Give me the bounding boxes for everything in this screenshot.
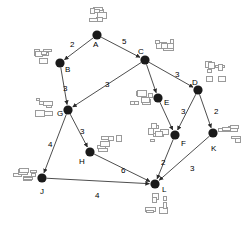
redaction-rect <box>148 128 154 135</box>
edge-weight-h-l: 6 <box>121 167 125 175</box>
mark-near-a <box>86 6 108 26</box>
edge-weight-a-b: 2 <box>70 41 74 49</box>
redaction-rect <box>35 110 45 117</box>
mark-near-k <box>218 124 244 145</box>
node-l[interactable] <box>150 179 159 188</box>
node-c[interactable] <box>140 55 149 64</box>
node-label-e: E <box>164 99 169 107</box>
redaction-rect <box>218 64 223 71</box>
mark-near-j <box>12 163 38 183</box>
redaction-rect <box>151 123 157 129</box>
redaction-rect <box>137 90 147 97</box>
node-label-f: F <box>181 140 186 148</box>
redaction-rect <box>163 196 167 201</box>
redaction-rect <box>41 51 47 55</box>
redaction-rect <box>155 40 160 44</box>
redaction-rect <box>150 139 155 142</box>
redaction-rect <box>161 43 168 49</box>
redaction-rect <box>152 197 157 203</box>
node-a[interactable] <box>92 30 101 39</box>
edge-weight-c-d: 3 <box>175 71 179 79</box>
node-k[interactable] <box>208 128 217 137</box>
redaction-rect <box>208 62 215 69</box>
redaction-rect <box>116 135 122 142</box>
redaction-rect <box>101 136 109 140</box>
redaction-rect <box>206 76 213 82</box>
graph-diagram: ABCDEFGHJKL 2533332234364 <box>0 0 250 233</box>
redaction-rect <box>23 177 33 180</box>
mark-near-g <box>33 98 55 118</box>
redaction-rect <box>155 131 163 137</box>
node-label-k: K <box>211 145 216 153</box>
edge-weight-g-h: 3 <box>80 128 84 136</box>
redaction-rect <box>130 101 135 105</box>
edge-weight-a-c: 5 <box>122 38 126 46</box>
edge-d-k <box>200 94 212 127</box>
edge-weight-d-k: 2 <box>214 108 218 116</box>
redaction-rect <box>230 125 239 129</box>
redaction-rect <box>89 18 98 22</box>
node-label-g: G <box>57 110 63 118</box>
node-b[interactable] <box>55 58 64 67</box>
node-label-j: J <box>40 188 44 196</box>
edge-a-b <box>64 38 93 60</box>
mark-near-h <box>95 133 124 153</box>
node-g[interactable] <box>63 105 72 114</box>
node-label-b: B <box>65 66 70 74</box>
edge-j-l <box>47 178 150 183</box>
redaction-rect <box>167 43 174 49</box>
redaction-rect <box>231 136 241 139</box>
redaction-rect <box>218 76 226 82</box>
node-label-a: A <box>93 41 98 49</box>
redaction-rect <box>100 141 110 147</box>
mark-near-b <box>33 48 55 66</box>
node-e[interactable] <box>153 93 162 102</box>
node-h[interactable] <box>85 147 94 156</box>
node-label-d: D <box>192 79 198 87</box>
edge-weight-g-j: 4 <box>48 141 52 149</box>
edge-c-d <box>149 62 193 87</box>
edge-weight-j-l: 4 <box>95 192 99 200</box>
edge-weight-k-l: 3 <box>190 165 194 173</box>
mark-near-c <box>152 36 178 53</box>
redaction-rect <box>39 58 48 64</box>
mark-near-d <box>203 60 229 83</box>
redaction-rect <box>222 127 231 131</box>
node-j[interactable] <box>37 173 46 182</box>
edge-weight-d-f: 3 <box>181 108 185 116</box>
edge-a-c <box>101 37 140 57</box>
redaction-rect <box>148 93 153 98</box>
node-label-c: C <box>138 48 144 56</box>
redaction-rect <box>19 168 29 173</box>
mark-near-e <box>128 88 153 106</box>
edge-g-h <box>70 114 87 147</box>
redaction-rect <box>43 101 53 106</box>
edge-weight-f-l: 2 <box>161 159 165 167</box>
redaction-rect <box>207 69 212 73</box>
mark-near-l <box>142 192 169 214</box>
edge-weight-b-g: 3 <box>63 85 67 93</box>
mark-near-f <box>146 122 172 142</box>
node-label-h: H <box>79 158 85 166</box>
redaction-rect <box>146 210 154 213</box>
edge-weight-c-g: 3 <box>105 81 109 89</box>
redaction-rect <box>90 8 95 14</box>
redaction-rect <box>163 202 167 209</box>
